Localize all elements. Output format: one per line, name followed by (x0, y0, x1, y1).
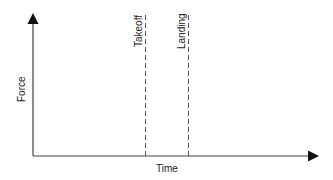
y-axis-label: Force (16, 76, 27, 102)
takeoff-label: Takeoff (133, 15, 144, 47)
landing-label: Landing (176, 13, 187, 49)
x-axis-label: Time (156, 163, 178, 174)
y-axis-arrowhead-icon (28, 13, 39, 24)
x-axis-arrowhead-icon (308, 151, 319, 162)
force-time-diagram: Takeoff Landing Force Time (0, 0, 333, 180)
